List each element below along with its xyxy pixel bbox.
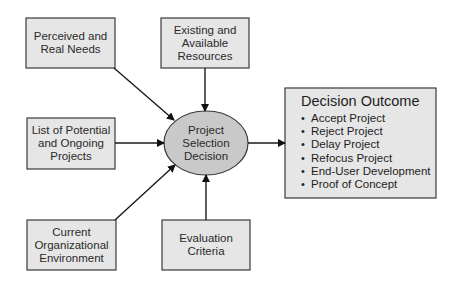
criteria-label-line-1: Evaluation — [179, 232, 233, 245]
needs-label-line-2: Real Needs — [40, 43, 100, 56]
outcome-item: Refocus Project — [301, 152, 436, 165]
environment-label-line-1: Current — [52, 226, 90, 239]
decision-label-line-1: Project — [188, 124, 224, 137]
projects-label-line-1: List of Potential — [32, 124, 111, 137]
environment-label-line-3: Environment — [39, 252, 104, 265]
environment-label: Current Organizational Environment — [27, 220, 116, 270]
decision-label-line-2: Selection — [182, 137, 229, 150]
resources-label-line-3: Resources — [178, 50, 233, 63]
environment-label-line-2: Organizational — [34, 239, 108, 252]
projects-label-line-3: Projects — [50, 150, 92, 163]
outcome-item: Proof of Concept — [301, 178, 436, 191]
outcome-item: Delay Project — [301, 138, 436, 151]
outcome-item: Reject Project — [301, 125, 436, 138]
decision-label: Project Selection Decision — [164, 111, 248, 175]
criteria-label: Evaluation Criteria — [162, 220, 250, 270]
outcome-item: End-User Development — [301, 165, 436, 178]
outcome-title: Decision Outcome — [301, 93, 436, 110]
resources-label: Existing and Available Resources — [161, 18, 249, 68]
outcome-panel: Decision Outcome Accept Project Reject P… — [285, 88, 436, 198]
resources-label-line-2: Available — [182, 37, 228, 50]
outcome-list: Accept Project Reject Project Delay Proj… — [301, 112, 436, 191]
needs-label: Perceived and Real Needs — [26, 18, 115, 68]
decision-label-line-3: Decision — [184, 150, 228, 163]
resources-label-line-1: Existing and — [174, 24, 237, 37]
outcome-item: Accept Project — [301, 112, 436, 125]
needs-label-line-1: Perceived and — [34, 30, 108, 43]
projects-label: List of Potential and Ongoing Projects — [27, 118, 115, 169]
criteria-label-line-2: Criteria — [187, 245, 224, 258]
projects-label-line-2: and Ongoing — [38, 137, 104, 150]
